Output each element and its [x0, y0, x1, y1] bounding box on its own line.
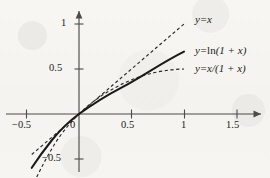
curve-label-y-equals-frac: y=x/(1 + x): [195, 63, 246, 74]
curve-label-y-equals-x: y=x: [195, 14, 212, 25]
chart-page: −0.5 0 0.5 1 1.5 1 0.5 −0.5 y=x y=ln(1 +…: [0, 0, 270, 178]
curve-label-y-equals-frac-expr: x/(1 + x): [207, 62, 246, 74]
y-axis-arrowhead: [76, 11, 83, 19]
x-tick-label-one-half: 1.5: [226, 120, 239, 131]
y-tick-label-neg-half: −0.5: [42, 153, 61, 164]
y-tick-label-half: 0.5: [49, 63, 62, 74]
curve-y-equals-x: [32, 24, 184, 155]
x-axis-arrowhead: [254, 111, 262, 118]
x-tick-label-neg-half: −0.5: [12, 120, 31, 131]
curve-label-y-equals-ln-expr: (1 + x): [216, 44, 247, 56]
curve-label-y-equals-x-expr: x: [207, 13, 212, 25]
curve-label-y-equals-ln-fn: ln: [207, 44, 216, 56]
x-tick-label-zero: 0: [70, 120, 75, 131]
x-tick-label-one: 1: [181, 120, 186, 131]
y-tick-label-one: 1: [61, 18, 66, 29]
curve-label-y-equals-ln: y=ln(1 + x): [195, 45, 246, 56]
function-plot: [0, 0, 270, 178]
x-tick-label-half: 0.5: [121, 120, 134, 131]
axes-group: [6, 11, 261, 172]
